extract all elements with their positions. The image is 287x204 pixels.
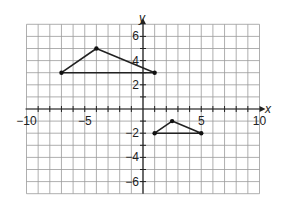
x-tick-label: −5 <box>78 114 92 128</box>
y-tick-label: −6 <box>125 175 139 189</box>
vertex-point <box>94 46 98 50</box>
x-tick-label: 5 <box>198 114 205 128</box>
y-tick-label: −4 <box>125 150 139 164</box>
vertex-point <box>152 71 156 75</box>
x-axis-label: x <box>264 102 272 116</box>
x-tick-label: −10 <box>16 114 37 128</box>
vertex-point <box>170 119 174 123</box>
y-tick-label: 6 <box>132 29 139 43</box>
y-axis-label: y <box>138 11 146 25</box>
x-tick-label: 10 <box>253 114 267 128</box>
vertex-point <box>59 71 63 75</box>
vertex-point <box>199 131 203 135</box>
y-tick-label: 2 <box>132 78 139 92</box>
coordinate-plane: −10−5510642−2−4−6 x y <box>0 0 287 204</box>
y-tick-label: −2 <box>125 126 139 140</box>
vertex-point <box>152 131 156 135</box>
